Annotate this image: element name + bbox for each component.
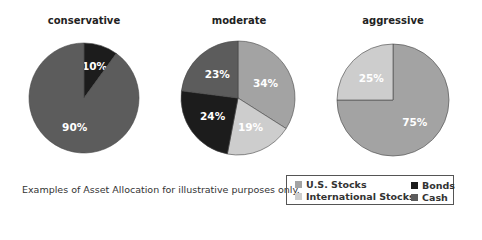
slice-label: 24% bbox=[200, 110, 226, 122]
slice-label: 25% bbox=[359, 72, 385, 84]
pie-slice-conservative-cash bbox=[29, 43, 139, 153]
slice-label: 10% bbox=[82, 60, 108, 72]
slice-label: 23% bbox=[205, 68, 231, 80]
legend-label-bonds: Bonds bbox=[422, 180, 455, 191]
slice-label: 90% bbox=[62, 121, 88, 133]
slice-label: 34% bbox=[253, 77, 279, 89]
slice-label: 75% bbox=[402, 116, 428, 128]
legend: U.S. Stocks International Stocks Bonds C… bbox=[286, 175, 454, 205]
legend-item-us-stocks: U.S. Stocks bbox=[295, 179, 367, 190]
legend-swatch-international-stocks bbox=[295, 193, 302, 200]
legend-item-cash: Cash bbox=[411, 192, 448, 203]
caption: Examples of Asset Allocation for illustr… bbox=[22, 184, 300, 195]
legend-label-us-stocks: U.S. Stocks bbox=[306, 179, 367, 190]
legend-item-bonds: Bonds bbox=[411, 180, 455, 191]
legend-label-cash: Cash bbox=[422, 192, 448, 203]
legend-swatch-cash bbox=[411, 194, 418, 201]
legend-swatch-us-stocks bbox=[295, 181, 302, 188]
slice-label: 19% bbox=[238, 121, 264, 133]
legend-swatch-bonds bbox=[411, 182, 418, 189]
legend-label-international-stocks: International Stocks bbox=[306, 191, 415, 202]
legend-item-international-stocks: International Stocks bbox=[295, 191, 415, 202]
